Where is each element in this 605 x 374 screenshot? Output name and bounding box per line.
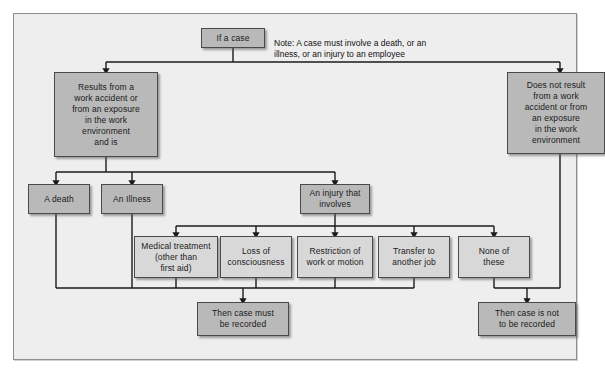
node-case-must-be-recorded[interactable]: Then case must be recorded (197, 302, 289, 336)
node-restriction-of-work-label: Restriction of work or motion (306, 246, 363, 268)
node-transfer-to-another-job[interactable]: Transfer to another job (378, 236, 450, 278)
node-medical-treatment-label: Medical treatment (other than first aid) (141, 241, 210, 274)
diagram-panel: If a case Note: A case must involve a de… (13, 13, 577, 360)
node-loss-of-consciousness-label: Loss of consciousness (227, 246, 284, 268)
node-an-injury-label: An injury that involves (309, 188, 360, 210)
node-medical-treatment[interactable]: Medical treatment (other than first aid) (134, 236, 218, 278)
node-does-not-result-from-accident-label: Does not result from a work accident or … (525, 80, 588, 146)
node-a-death[interactable]: A death (28, 184, 90, 214)
diagram-note: Note: A case must involve a death, or an… (274, 26, 564, 61)
node-loss-of-consciousness[interactable]: Loss of consciousness (220, 236, 292, 278)
node-an-illness-label: An Illness (113, 194, 151, 205)
node-none-of-these[interactable]: None of these (458, 236, 530, 278)
node-does-not-result-from-accident[interactable]: Does not result from a work accident or … (507, 72, 605, 154)
node-results-from-accident[interactable]: Results from a work accident or from an … (54, 72, 158, 157)
node-an-illness[interactable]: An Illness (101, 184, 163, 214)
node-none-of-these-label: None of these (479, 246, 509, 268)
diagram-canvas: If a case Note: A case must involve a de… (14, 14, 576, 359)
node-a-death-label: A death (44, 194, 74, 205)
diagram-note-label: Note: A case must involve a death, or an… (274, 38, 426, 60)
node-restriction-of-work[interactable]: Restriction of work or motion (297, 236, 373, 278)
node-start-label: If a case (216, 33, 249, 44)
node-case-must-be-recorded-label: Then case must be recorded (212, 308, 274, 330)
node-case-not-to-be-recorded[interactable]: Then case is not to be recorded (478, 302, 576, 336)
node-results-from-accident-label: Results from a work accident or from an … (72, 82, 140, 148)
node-transfer-to-another-job-label: Transfer to another job (392, 246, 436, 268)
node-case-not-to-be-recorded-label: Then case is not to be recorded (495, 308, 559, 330)
node-start[interactable]: If a case (201, 28, 265, 48)
node-an-injury[interactable]: An injury that involves (300, 184, 370, 214)
